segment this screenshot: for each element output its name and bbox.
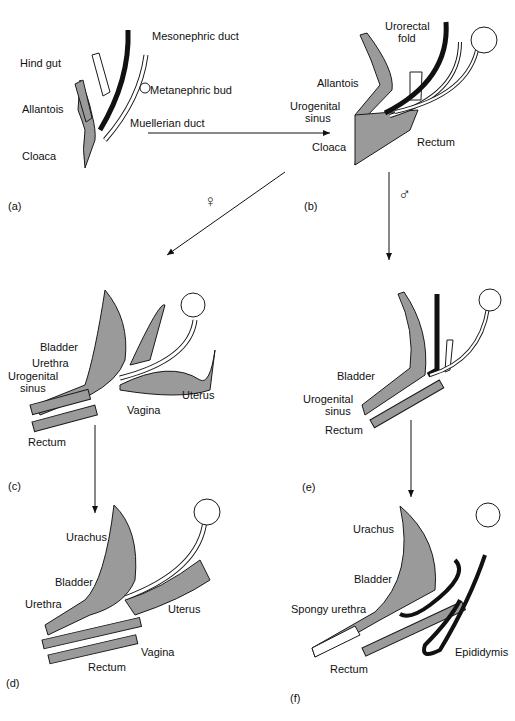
- label-mesonephric-duct: Mesonephric duct: [152, 30, 239, 42]
- label-urorectal: Urorectal: [385, 20, 430, 32]
- label-rectum-b: Rectum: [417, 136, 455, 148]
- label-allantois-b: Allantois: [317, 77, 359, 89]
- label-cloaca-b: Cloaca: [312, 141, 346, 153]
- label-bladder-f: Bladder: [354, 573, 392, 585]
- panel-label-e: (e): [302, 481, 315, 493]
- label-rectum-e: Rectum: [325, 424, 363, 436]
- female-symbol-icon: ♀: [204, 193, 217, 210]
- label-cloaca: Cloaca: [22, 150, 56, 162]
- label-hind-gut: Hind gut: [20, 57, 61, 69]
- label-sinus-b: sinus: [305, 112, 331, 124]
- arrow-b-to-c-female: [167, 172, 285, 255]
- label-vagina-d: Vagina: [141, 646, 174, 658]
- label-fold: fold: [398, 32, 416, 44]
- label-urogenital-e: Urogenital: [303, 393, 353, 405]
- diagram-canvas: [0, 0, 515, 721]
- label-sinus-e: sinus: [325, 405, 351, 417]
- label-rectum-d: Rectum: [88, 661, 126, 673]
- label-vagina-c: Vagina: [127, 404, 160, 416]
- label-urachus-f: Urachus: [353, 523, 394, 535]
- label-metanephric-bud: Metanephric bud: [150, 84, 232, 96]
- label-uterus-c: Uterus: [182, 389, 214, 401]
- panel-label-b: (b): [304, 200, 317, 212]
- label-muellerian-duct: Muellerian duct: [130, 117, 205, 129]
- panel-label-a: (a): [8, 200, 21, 212]
- label-urethra-c: Urethra: [32, 357, 69, 369]
- panel-label-f: (f): [290, 692, 300, 704]
- label-spongy-urethra: Spongy urethra: [291, 603, 366, 615]
- label-urethra-d: Urethra: [25, 598, 62, 610]
- label-bladder-e: Bladder: [337, 370, 375, 382]
- male-symbol-icon: ♂: [398, 186, 411, 203]
- panel-f-drawing: [312, 503, 500, 657]
- panel-label-c: (c): [8, 480, 21, 492]
- label-urogenital-b: Urogenital: [290, 100, 340, 112]
- label-uterus-d: Uterus: [168, 603, 200, 615]
- label-rectum-c: Rectum: [28, 436, 66, 448]
- label-bladder-d: Bladder: [55, 576, 93, 588]
- panel-label-d: (d): [6, 677, 19, 689]
- label-epididymis: Epididymis: [455, 646, 508, 658]
- label-sinus-c: sinus: [20, 382, 46, 394]
- label-rectum-f: Rectum: [330, 663, 368, 675]
- panel-a-drawing: [75, 30, 150, 168]
- panel-e-drawing: [362, 289, 501, 428]
- label-urachus-d: Urachus: [66, 531, 107, 543]
- label-bladder-c: Bladder: [40, 341, 78, 353]
- label-urogenital-c: Urogenital: [8, 370, 58, 382]
- label-allantois: Allantois: [22, 103, 64, 115]
